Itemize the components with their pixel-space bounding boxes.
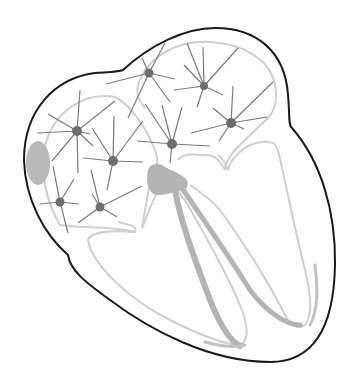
focus-node xyxy=(167,139,177,149)
atrial-septum-wall xyxy=(115,97,157,170)
ectopic-focus xyxy=(191,82,273,141)
focus-node xyxy=(226,118,236,128)
left-bundle-branch xyxy=(175,190,240,346)
heart-diagram xyxy=(0,0,353,386)
focus-node xyxy=(72,126,82,136)
right-atrium-wall xyxy=(140,42,276,170)
sinoatrial-node xyxy=(26,141,50,185)
focus-node xyxy=(108,156,118,166)
left-atrium-wall xyxy=(43,96,136,232)
focus-node xyxy=(200,82,208,90)
focus-node xyxy=(96,203,105,212)
left-ventricle-wall xyxy=(88,185,247,345)
ectopic-focus xyxy=(83,116,143,190)
focus-node xyxy=(56,198,65,207)
heart-svg xyxy=(0,0,353,386)
purkinje-right xyxy=(310,265,317,325)
focus-node xyxy=(145,69,154,78)
right-bundle-branch xyxy=(182,188,300,325)
ectopic-focus xyxy=(174,43,238,107)
